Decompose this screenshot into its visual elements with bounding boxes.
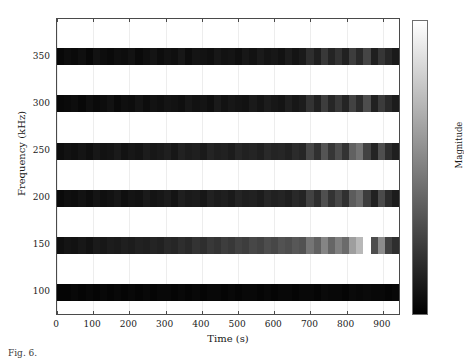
heatmap-cell [143,143,150,160]
heatmap-cell [100,190,107,207]
heatmap-cell [249,143,256,160]
heatmap-cell [378,48,385,65]
heatmap-cell [107,284,114,301]
heatmap-cell [185,48,192,65]
figure-caption: Fig. 6. [8,348,128,362]
heatmap-cell [342,284,349,301]
x-axis-tick [57,18,58,22]
heatmap-cell [363,190,370,207]
heatmap-cell [299,284,306,301]
heatmap-cell [143,190,150,207]
heatmap-cell [135,48,142,65]
heatmap-cell [100,143,107,160]
heatmap-cell [64,95,71,112]
heatmap-cell [392,143,399,160]
heatmap-cell [200,237,207,254]
heatmap-cell [228,95,235,112]
colorbar [412,20,428,315]
heatmap-cell [257,284,264,301]
heatmap-band-250khz [57,143,399,160]
heatmap-cell [93,95,100,112]
heatmap-cell [264,284,271,301]
heatmap-cell [135,284,142,301]
heatmap-cell [150,48,157,65]
heatmap-cell [71,48,78,65]
heatmap-cell [78,95,85,112]
heatmap-cell [349,143,356,160]
heatmap-cell [214,190,221,207]
heatmap-cell [235,284,242,301]
heatmap-cell [192,284,199,301]
heatmap-cell [249,237,256,254]
y-tick-label: 350 [22,51,50,61]
heatmap-cell [257,48,264,65]
heatmap-cell [200,48,207,65]
heatmap-cell [285,284,292,301]
heatmap-cell [207,95,214,112]
heatmap-cell [257,237,264,254]
heatmap-cell [392,48,399,65]
heatmap-cell [299,48,306,65]
heatmap-band-200khz [57,190,399,207]
heatmap-cell [93,190,100,207]
heatmap-cell [57,95,64,112]
heatmap-cell [185,95,192,112]
heatmap-cell [356,48,363,65]
heatmap-cell [356,95,363,112]
heatmap-cell [363,237,370,254]
heatmap-cell [157,237,164,254]
x-axis-tick [238,311,239,315]
heatmap-cell [93,237,100,254]
heatmap-cell [107,95,114,112]
heatmap-cell [214,143,221,160]
heatmap-cell [321,190,328,207]
heatmap-cell [242,143,249,160]
x-axis-tick [310,311,311,315]
heatmap-cell [306,95,313,112]
x-axis-tick [274,18,275,22]
heatmap-cell [57,143,64,160]
heatmap-cell [371,190,378,207]
heatmap-cell [157,48,164,65]
heatmap-cell [264,237,271,254]
heatmap-cell [114,237,121,254]
heatmap-cell [192,143,199,160]
heatmap-cell [86,237,93,254]
heatmap-cell [107,48,114,65]
x-tick-label: 0 [36,319,76,329]
heatmap-cell [192,95,199,112]
y-axis-label: Frequency (kHz) [16,79,27,229]
heatmap-cell [128,190,135,207]
heatmap-cell [121,48,128,65]
heatmap-cell [306,237,313,254]
heatmap-cell [385,284,392,301]
heatmap-cell [249,284,256,301]
heatmap-cell [93,143,100,160]
heatmap-cell [271,190,278,207]
heatmap-cell [285,190,292,207]
heatmap-cell [100,237,107,254]
heatmap-cell [150,143,157,160]
heatmap-cell [271,143,278,160]
heatmap-cell [71,237,78,254]
heatmap-cell [86,95,93,112]
heatmap-cell [164,48,171,65]
heatmap-cell [285,48,292,65]
heatmap-cell [321,95,328,112]
colorbar-label: Magnitude [454,85,464,205]
heatmap-cell [356,284,363,301]
x-tick-label: 300 [145,319,185,329]
heatmap-cell [221,284,228,301]
heatmap-cell [363,284,370,301]
heatmap-cell [257,143,264,160]
heatmap-cell [242,284,249,301]
heatmap-cell [371,48,378,65]
heatmap-cell [178,284,185,301]
heatmap-cell [335,143,342,160]
heatmap-cell [128,284,135,301]
heatmap-cell [328,284,335,301]
x-axis-tick [202,311,203,315]
y-tick-label: 150 [22,239,50,249]
heatmap-cell [349,95,356,112]
heatmap-cell [349,284,356,301]
